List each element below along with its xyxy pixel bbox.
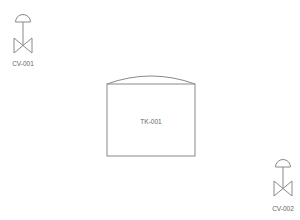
valve-label: CV-002	[272, 205, 294, 212]
pid-canvas: CV-001 TK-001 CV-002	[0, 0, 300, 220]
valve-label: CV-001	[12, 60, 34, 67]
tank-tk-001[interactable]: TK-001	[107, 76, 195, 156]
control-valve-cv-001[interactable]: CV-001	[12, 15, 34, 68]
tank-label: TK-001	[140, 118, 162, 125]
control-valve-cv-002[interactable]: CV-002	[272, 160, 294, 212]
actuator-dome-icon	[16, 15, 31, 23]
actuator-dome-icon	[276, 160, 291, 167]
tank-dome	[107, 76, 195, 84]
